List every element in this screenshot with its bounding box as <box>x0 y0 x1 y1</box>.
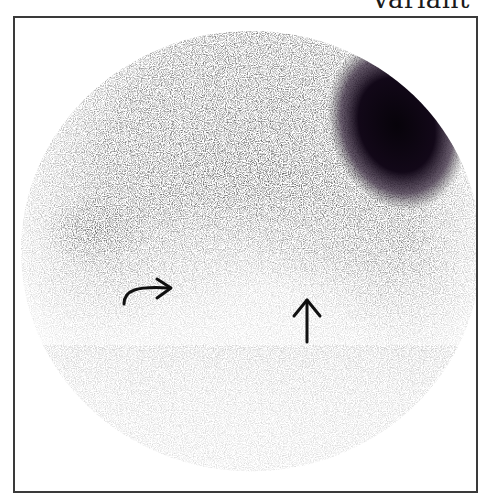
up-arrow-icon <box>291 296 323 344</box>
figure-label: Variant <box>371 0 470 12</box>
curved-arrow-icon <box>119 276 179 308</box>
scan-frame <box>13 16 478 493</box>
scintigraphy-image <box>15 18 476 491</box>
